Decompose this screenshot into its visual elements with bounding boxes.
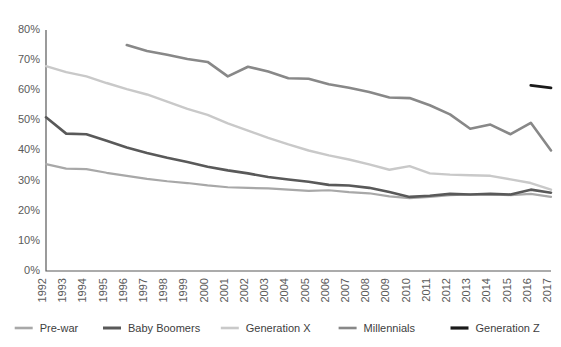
x-axis-tick-label: 2017 xyxy=(541,278,553,302)
legend-label-generation-z: Generation Z xyxy=(476,322,540,334)
x-axis-tick-label: 2007 xyxy=(339,278,351,302)
legend-label-baby-boomers: Baby Boomers xyxy=(128,322,201,334)
x-axis-tick-label: 2012 xyxy=(440,278,452,302)
data-series-group xyxy=(46,45,551,198)
line-chart: 0%10%20%30%40%50%60%70%80% 1992199319941… xyxy=(0,0,561,347)
x-axis-tick-label: 2010 xyxy=(400,278,412,302)
x-axis-tick-label: 2000 xyxy=(198,278,210,302)
axis-frame xyxy=(46,30,551,271)
y-axis-tick-label: 80% xyxy=(18,23,40,35)
x-axis-tick-label: 1995 xyxy=(97,278,109,302)
x-axis-tick-label: 2003 xyxy=(258,278,270,302)
y-axis-tick-label: 20% xyxy=(18,204,40,216)
x-axis-tick-label: 2009 xyxy=(379,278,391,302)
x-axis-tick-label: 2006 xyxy=(319,278,331,302)
legend-label-millennials: Millennials xyxy=(364,322,416,334)
x-axis-tick-label: 2005 xyxy=(299,278,311,302)
chart-canvas: 0%10%20%30%40%50%60%70%80% 1992199319941… xyxy=(0,0,561,347)
x-axis-tick-label: 1996 xyxy=(117,278,129,302)
y-axis-tick-label: 30% xyxy=(18,174,40,186)
x-axis-tick-label: 2001 xyxy=(218,278,230,302)
x-axis-tick-label: 2013 xyxy=(460,278,472,302)
axis-lines xyxy=(46,30,551,271)
x-axis-tick-label: 1999 xyxy=(177,278,189,302)
x-axis-tick-labels: 1992199319941995199619971998199920002001… xyxy=(36,278,553,302)
y-axis-tick-label: 0% xyxy=(24,264,40,276)
chart-legend: Pre-warBaby BoomersGeneration XMillennia… xyxy=(15,322,540,334)
x-axis-tick-label: 2016 xyxy=(521,278,533,302)
x-axis-tick-label: 2004 xyxy=(278,278,290,302)
y-axis-tick-label: 10% xyxy=(18,234,40,246)
x-axis-tick-label: 1998 xyxy=(157,278,169,302)
y-axis-tick-labels: 0%10%20%30%40%50%60%70%80% xyxy=(18,23,40,276)
series-line-baby-boomers xyxy=(46,117,551,197)
x-axis-tick-label: 1994 xyxy=(76,278,88,302)
x-axis-tick-label: 2002 xyxy=(238,278,250,302)
x-axis-tick-label: 2008 xyxy=(359,278,371,302)
y-axis-tick-label: 60% xyxy=(18,83,40,95)
x-axis-tick-label: 1993 xyxy=(56,278,68,302)
x-axis-tick-label: 2014 xyxy=(480,278,492,302)
x-axis-tick-label: 2015 xyxy=(501,278,513,302)
x-axis-tick-label: 2011 xyxy=(420,278,432,302)
x-axis-tick-label: 1992 xyxy=(36,278,48,302)
series-line-generation-z xyxy=(531,85,551,87)
series-line-millennials xyxy=(127,45,551,150)
legend-label-generation-x: Generation X xyxy=(246,322,311,334)
legend-label-pre-war: Pre-war xyxy=(40,322,79,334)
y-axis-tick-label: 70% xyxy=(18,53,40,65)
x-axis-tick-label: 1997 xyxy=(137,278,149,302)
y-axis-tick-label: 50% xyxy=(18,113,40,125)
y-axis-tick-label: 40% xyxy=(18,143,40,155)
